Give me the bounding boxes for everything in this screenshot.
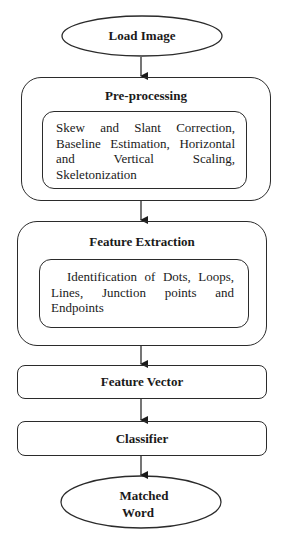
feature-extraction-title: Feature Extraction	[18, 234, 266, 250]
preprocessing-box: Pre-processing Skew and Slant Correction…	[21, 77, 271, 201]
preprocessing-title: Pre-processing	[22, 88, 270, 104]
classifier-box: Classifier	[17, 421, 267, 456]
feature-vector-label: Feature Vector	[101, 374, 183, 390]
feature-extraction-details: Identification of Dots, Loops, Lines, Ju…	[51, 269, 234, 316]
preprocessing-details: Skew and Slant Correction, Baseline Esti…	[56, 120, 235, 182]
start-node-label: Load Image	[62, 28, 222, 44]
feature-vector-box: Feature Vector	[17, 365, 267, 399]
feature-extraction-box: Feature Extraction Identification of Dot…	[17, 221, 267, 346]
feature-extraction-details-box: Identification of Dots, Loops, Lines, Ju…	[39, 259, 249, 328]
end-node-label: Matched Word	[61, 487, 221, 521]
classifier-label: Classifier	[116, 431, 169, 447]
preprocessing-details-box: Skew and Slant Correction, Baseline Esti…	[42, 111, 247, 189]
